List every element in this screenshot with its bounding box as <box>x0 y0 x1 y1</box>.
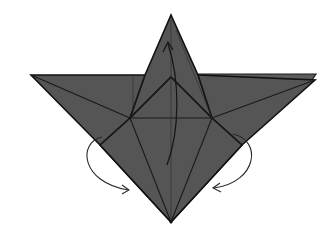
bottom-tip-point <box>170 221 173 224</box>
origami-diagram <box>0 0 333 233</box>
diagram-canvas <box>0 0 333 233</box>
